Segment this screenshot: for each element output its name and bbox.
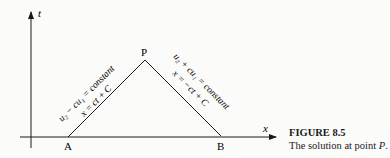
x-axis-label: x	[262, 122, 268, 134]
caption-suffix: .	[385, 140, 388, 151]
t-axis-label: t	[38, 7, 42, 19]
point-a-label: A	[64, 140, 72, 152]
point-p-label: P	[141, 46, 147, 58]
caption-prefix: The solution at point	[289, 140, 379, 151]
point-b-label: B	[217, 140, 224, 152]
figure-caption-text: The solution at point P.	[289, 139, 388, 152]
right-characteristic	[145, 60, 221, 136]
figure-number: FIGURE 8.5	[289, 126, 388, 139]
figure-caption: FIGURE 8.5 The solution at point P.	[289, 126, 388, 152]
